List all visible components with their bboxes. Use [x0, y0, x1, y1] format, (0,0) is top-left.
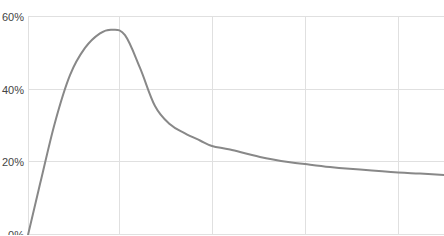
series-line [28, 30, 444, 235]
line-chart: 0%20%40%60% [0, 0, 444, 235]
y-tick-label: 40% [2, 84, 24, 96]
y-tick-label: 60% [2, 11, 24, 23]
y-tick-label: 0% [8, 229, 24, 236]
grid-lines [28, 17, 444, 236]
y-tick-label: 20% [2, 156, 24, 168]
y-axis-labels: 0%20%40%60% [2, 11, 24, 236]
